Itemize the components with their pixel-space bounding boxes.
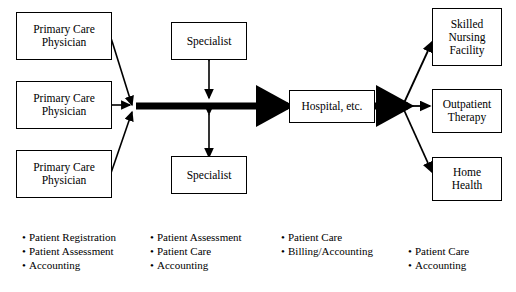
- node-specialist-2[interactable]: Specialist: [171, 156, 247, 194]
- bullet-icon: •: [150, 244, 157, 258]
- legend-item: •Patient Assessment: [150, 230, 242, 244]
- legend-item-label: Billing/Accounting: [288, 245, 373, 257]
- node-label: Specialist: [185, 169, 234, 182]
- bullet-icon: •: [22, 244, 29, 258]
- node-primary-care-physician-2[interactable]: Primary Care Physician: [16, 81, 112, 129]
- node-specialist-1[interactable]: Specialist: [171, 22, 247, 60]
- node-label: Primary Care Physician: [31, 23, 97, 49]
- legend-column-4: •Patient Care •Accounting: [408, 244, 469, 272]
- node-label: Primary Care Physician: [31, 161, 97, 187]
- node-label: Primary Care Physician: [31, 92, 97, 118]
- legend-item-label: Patient Care: [415, 245, 469, 257]
- legend-item: •Accounting: [408, 258, 469, 272]
- node-primary-care-physician-1[interactable]: Primary Care Physician: [16, 12, 112, 60]
- diagram-canvas: Primary Care Physician Primary Care Phys…: [0, 0, 516, 292]
- legend-item-label: Patient Registration: [29, 231, 116, 243]
- bullet-icon: •: [408, 258, 415, 272]
- node-skilled-nursing-facility[interactable]: Skilled Nursing Facility: [432, 8, 502, 66]
- legend-item: •Patient Care: [408, 244, 469, 258]
- node-label: Home Health: [450, 166, 485, 192]
- legend-item: •Accounting: [22, 258, 116, 272]
- node-outpatient-therapy[interactable]: Outpatient Therapy: [432, 89, 502, 133]
- bullet-icon: •: [150, 230, 157, 244]
- legend-item: •Patient Registration: [22, 230, 116, 244]
- node-primary-care-physician-3[interactable]: Primary Care Physician: [16, 150, 112, 198]
- legend-item-label: Accounting: [157, 259, 208, 271]
- legend-column-1: •Patient Registration •Patient Assessmen…: [22, 230, 116, 272]
- legend-column-2: •Patient Assessment •Patient Care •Accou…: [150, 230, 242, 272]
- bullet-icon: •: [22, 258, 29, 272]
- node-label: Skilled Nursing Facility: [446, 18, 487, 57]
- legend-column-3: •Patient Care •Billing/Accounting: [281, 230, 373, 258]
- legend-item: •Accounting: [150, 258, 242, 272]
- node-hospital[interactable]: Hospital, etc.: [289, 90, 375, 123]
- bullet-icon: •: [150, 258, 157, 272]
- bullet-icon: •: [281, 244, 288, 258]
- node-home-health[interactable]: Home Health: [432, 157, 502, 201]
- node-label: Outpatient Therapy: [441, 98, 494, 124]
- legend-item-label: Accounting: [415, 259, 466, 271]
- bullet-icon: •: [22, 230, 29, 244]
- legend-item: •Patient Assessment: [22, 244, 116, 258]
- legend-item: •Billing/Accounting: [281, 244, 373, 258]
- legend-item: •Patient Care: [281, 230, 373, 244]
- legend-item: •Patient Care: [150, 244, 242, 258]
- bullet-icon: •: [408, 244, 415, 258]
- legend-item-label: Accounting: [29, 259, 80, 271]
- node-label: Hospital, etc.: [300, 100, 365, 113]
- legend-item-label: Patient Care: [288, 231, 342, 243]
- bullet-icon: •: [281, 230, 288, 244]
- legend-item-label: Patient Care: [157, 245, 211, 257]
- legend-item-label: Patient Assessment: [29, 245, 114, 257]
- legend-item-label: Patient Assessment: [157, 231, 242, 243]
- node-label: Specialist: [185, 35, 234, 48]
